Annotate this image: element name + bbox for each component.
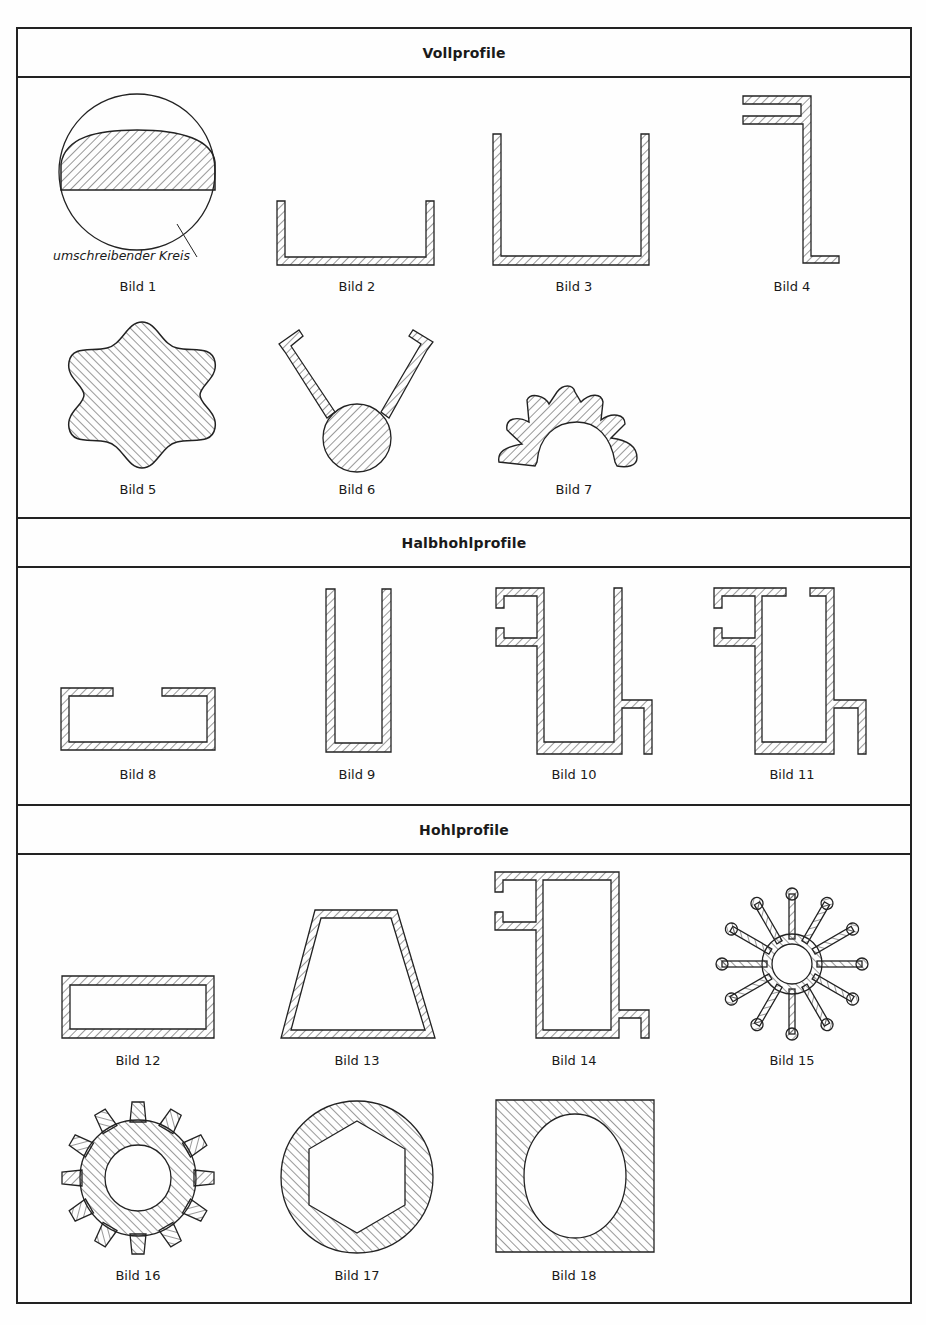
gear-tube-profile-drawing — [60, 1100, 220, 1260]
figure-caption: Bild 6 — [287, 482, 427, 497]
figure-bild-6 — [277, 328, 437, 473]
solid-profile-circumscribed-circle-drawing — [57, 92, 227, 272]
figure-caption: Bild 17 — [287, 1268, 427, 1283]
deep-u-profile-drawing — [326, 589, 396, 755]
section-header-halbhohlprofile: Halbhohlprofile — [16, 517, 912, 568]
channel-profile-shallow-drawing — [277, 201, 437, 267]
figure-bild-4 — [743, 96, 843, 266]
stepped-channel-with-hooks-profile-drawing — [496, 588, 656, 758]
figure-bild-2 — [277, 201, 437, 267]
trapezoid-tube-profile-drawing — [281, 910, 441, 1040]
figure-bild-10 — [496, 588, 656, 758]
figure-caption: Bild 16 — [68, 1268, 208, 1283]
figure-bild-9 — [326, 589, 396, 755]
figure-bild-8 — [61, 688, 221, 754]
figure-caption: Bild 13 — [287, 1053, 427, 1068]
rectangular-tube-profile-drawing — [62, 976, 222, 1042]
figure-caption: Bild 4 — [722, 279, 862, 294]
c-slot-profile-drawing — [61, 688, 221, 754]
figure-caption: Bild 3 — [504, 279, 644, 294]
section-title: Vollprofile — [422, 45, 505, 61]
section-title: Halbhohlprofile — [401, 535, 526, 551]
figure-caption: Bild 12 — [68, 1053, 208, 1068]
z-profile-with-double-flange-drawing — [743, 96, 843, 266]
figure-caption: Bild 8 — [68, 767, 208, 782]
radial-fin-tube-profile-drawing — [712, 884, 872, 1044]
figure-caption: Bild 15 — [722, 1053, 862, 1068]
figure-bild-16 — [60, 1100, 220, 1260]
figure-caption: Bild 18 — [504, 1268, 644, 1283]
section-header-hohlprofile: Hohlprofile — [16, 804, 912, 855]
figure-bild-18 — [496, 1100, 656, 1260]
square-with-round-bore-profile-drawing — [496, 1100, 656, 1260]
figure-bild-5 — [62, 320, 222, 470]
figure-bild-17 — [280, 1100, 440, 1260]
figure-caption: Bild 10 — [504, 767, 644, 782]
figure-bild-13 — [281, 910, 441, 1040]
figure-bild-3 — [493, 134, 653, 268]
figure-bild-1 — [57, 92, 227, 272]
figure-caption: Bild 2 — [287, 279, 427, 294]
figure-bild-15 — [712, 884, 872, 1044]
figure-caption: Bild 14 — [504, 1053, 644, 1068]
open-box-with-hooks-profile-drawing — [714, 588, 874, 758]
figure-bild-7 — [497, 382, 662, 472]
round-tube-with-hex-bore-profile-drawing — [280, 1100, 440, 1260]
section-header-vollprofile: Vollprofile — [16, 29, 912, 78]
half-gear-segment-profile-drawing — [497, 382, 662, 472]
figure-caption: Bild 5 — [68, 482, 208, 497]
hollow-box-with-hooks-profile-drawing — [495, 872, 655, 1042]
figure-bild-14 — [495, 872, 655, 1042]
figure-caption: Bild 7 — [504, 482, 644, 497]
channel-profile-deep-drawing — [493, 134, 653, 268]
figure-bild-11 — [714, 588, 874, 758]
figure-caption: Bild 9 — [287, 767, 427, 782]
circle-with-t-arms-profile-drawing — [277, 328, 437, 473]
figure-caption: Bild 1 — [68, 279, 208, 294]
figure-bild-12 — [62, 976, 222, 1042]
annotation-circumscribed-circle: umschreibender Kreis — [53, 248, 190, 263]
figure-caption: Bild 11 — [722, 767, 862, 782]
six-lobe-star-profile-drawing — [62, 320, 222, 470]
section-title: Hohlprofile — [419, 822, 509, 838]
